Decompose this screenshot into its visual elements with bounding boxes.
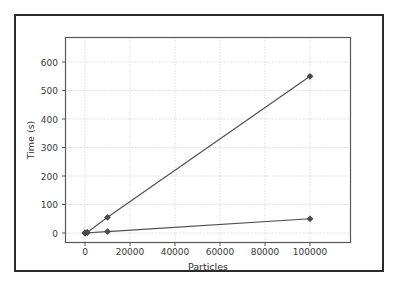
ytick-label-500: 500 xyxy=(41,86,58,96)
ytick-label-300: 300 xyxy=(41,143,58,153)
xtick-label-40000: 40000 xyxy=(161,247,190,257)
ytick-label-100: 100 xyxy=(41,200,58,210)
xaxis-title: Particles xyxy=(188,261,228,272)
ytick-label-0: 0 xyxy=(52,229,58,239)
ytick-label-600: 600 xyxy=(41,58,58,68)
xtick-label-0: 0 xyxy=(82,247,88,257)
chart-plot: 0 20000 40000 60000 80000 100000 0 100 2… xyxy=(0,0,398,288)
plot-background xyxy=(66,38,351,243)
figure-canvas: 0 20000 40000 60000 80000 100000 0 100 2… xyxy=(0,0,398,288)
xtick-label-20000: 20000 xyxy=(116,247,145,257)
xtick-label-80000: 80000 xyxy=(251,247,280,257)
ytick-label-200: 200 xyxy=(41,172,58,182)
yaxis-title: Time (s) xyxy=(25,121,36,161)
xtick-label-60000: 60000 xyxy=(206,247,235,257)
xtick-label-100000: 100000 xyxy=(293,247,328,257)
ytick-label-400: 400 xyxy=(41,115,58,125)
